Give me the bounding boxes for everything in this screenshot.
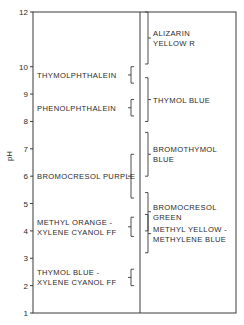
range-bracket: [128, 269, 134, 285]
y-tick-label: 4: [24, 227, 29, 236]
range-bracket: [145, 132, 151, 176]
indicator-range: THYMOL BLUE -XYLENE CYANOL FF: [37, 268, 134, 287]
indicator-label: THYMOL BLUE: [153, 96, 210, 105]
range-bracket: [128, 100, 134, 116]
indicator-range: BROMOTHYMOLBLUE: [145, 132, 217, 176]
y-tick-label: 10: [19, 63, 28, 72]
indicator-label: METHYL YELLOW -: [153, 225, 227, 234]
y-tick-label: 8: [24, 117, 29, 126]
range-bracket: [145, 214, 151, 252]
indicator-label: THYMOLPHTHALEIN: [37, 71, 117, 80]
indicator-range: ALIZARINYELLOW R: [145, 12, 195, 64]
y-axis-ticks: 1234567891012: [19, 8, 33, 318]
y-tick-label: 12: [19, 8, 28, 17]
indicator-range: METHYL ORANGE -XYLENE CYANOL FF: [37, 217, 134, 237]
indicator-range: BROMOCRESOL PURPLE: [37, 154, 135, 198]
indicator-label: XYLENE CYANOL FF: [37, 228, 116, 237]
range-bracket: [145, 12, 151, 64]
indicator-label: BROMOTHYMOL: [153, 145, 217, 154]
indicator-range: THYMOLPHTHALEIN: [37, 67, 134, 83]
indicator-label: YELLOW R: [153, 39, 195, 48]
y-tick-label: 7: [24, 145, 29, 154]
indicator-label: GREEN: [153, 213, 182, 222]
indicator-label: XYLENE CYANOL FF: [37, 278, 116, 287]
range-bracket: [128, 217, 134, 236]
indicator-label: BROMOCRESOL: [153, 203, 217, 212]
y-tick-label: 9: [24, 90, 29, 99]
indicator-label: PHENOLPHTHALEIN: [37, 104, 116, 113]
y-tick-label: 3: [24, 254, 29, 263]
indicator-label: BROMOCRESOL PURPLE: [37, 172, 135, 181]
range-bracket: [145, 78, 151, 122]
indicator-label: BLUE: [153, 155, 174, 164]
indicator-range: PHENOLPHTHALEIN: [37, 100, 134, 116]
indicator-label: THYMOL BLUE -: [37, 268, 100, 277]
right-indicator-column: ALIZARINYELLOW RTHYMOL BLUEBROMOTHYMOLBL…: [145, 12, 227, 253]
indicator-label: METHYLENE BLUE: [153, 235, 226, 244]
indicator-label: ALIZARIN: [153, 29, 190, 38]
y-tick-label: 1: [24, 309, 29, 318]
y-tick-label: 2: [24, 282, 29, 291]
indicator-label: METHYL ORANGE -: [37, 218, 113, 227]
indicator-range: THYMOL BLUE: [145, 78, 210, 122]
y-tick-label: 6: [24, 172, 29, 181]
y-axis-title: pH: [5, 151, 14, 161]
y-tick-label: 5: [24, 200, 29, 209]
range-bracket: [128, 67, 134, 83]
left-indicator-column: THYMOLPHTHALEINPHENOLPHTHALEINBROMOCRESO…: [37, 67, 135, 288]
ph-indicator-chart: 1234567891012 pH THYMOLPHTHALEINPHENOLPH…: [0, 0, 244, 325]
